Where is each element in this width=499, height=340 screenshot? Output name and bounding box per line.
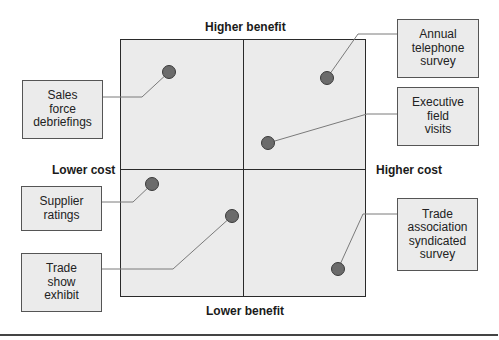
label-line: survey: [407, 248, 467, 262]
label-line: ratings: [39, 209, 83, 223]
label-supplier-ratings: Supplier ratings: [21, 186, 102, 231]
dot-supplier-ratings: [145, 177, 159, 191]
label-executive-field: Executive field visits: [397, 87, 479, 146]
leader-trade-association: [338, 214, 397, 269]
leader-trade-show: [102, 216, 232, 269]
label-sales-force: Sales force debriefings: [22, 80, 103, 139]
label-line: Executive: [412, 96, 464, 110]
leader-sales-force: [103, 72, 169, 97]
label-annual-telephone: Annual telephone survey: [397, 19, 479, 78]
dot-sales-force: [162, 65, 176, 79]
leader-supplier-ratings: [102, 184, 152, 202]
label-line: Sales: [33, 89, 92, 103]
leader-annual-telephone: [327, 34, 397, 78]
label-line: Trade: [407, 208, 467, 222]
label-trade-association: Trade association syndicated survey: [397, 198, 478, 271]
label-line: debriefings: [33, 116, 92, 130]
label-line: exhibit: [44, 289, 79, 303]
label-line: syndicated: [407, 235, 467, 249]
leader-executive-field: [268, 114, 397, 143]
label-line: telephone: [412, 42, 465, 56]
dot-executive-field: [261, 136, 275, 150]
label-line: Supplier: [39, 195, 83, 209]
label-line: Trade: [44, 262, 79, 276]
dot-trade-association: [331, 262, 345, 276]
label-line: Annual: [412, 28, 465, 42]
label-line: force: [33, 103, 92, 117]
bottom-rule: [0, 334, 498, 336]
dot-trade-show: [225, 209, 239, 223]
label-line: field: [412, 110, 464, 124]
label-line: visits: [412, 123, 464, 137]
label-line: show: [44, 276, 79, 290]
label-trade-show: Trade show exhibit: [21, 253, 102, 312]
label-line: association: [407, 221, 467, 235]
dot-annual-telephone: [320, 71, 334, 85]
label-line: survey: [412, 55, 465, 69]
